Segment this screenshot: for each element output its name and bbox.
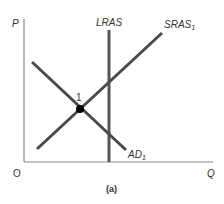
sras1-curve — [37, 33, 162, 149]
x-axis-label: Q — [207, 169, 215, 179]
ad1-label: AD1 — [128, 150, 146, 161]
lras-label: LRAS — [96, 18, 122, 28]
figure-caption: (a) — [106, 185, 117, 194]
origin-label: O — [13, 169, 21, 179]
point-1-label: 1 — [76, 93, 82, 103]
sras1-label: SRAS1 — [164, 20, 195, 31]
y-axis-label: P — [12, 19, 19, 29]
equilibrium-point-1 — [76, 105, 84, 113]
